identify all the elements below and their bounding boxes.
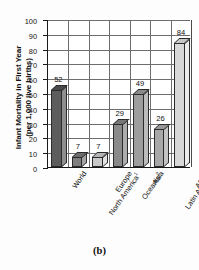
figure-container: Infant Mortality in First Year (per 1,00… xyxy=(0,0,199,270)
bar-front-face xyxy=(72,157,83,167)
y-axis-tick-label: 90 xyxy=(29,31,37,40)
y-axis-tick-label: 30 xyxy=(29,120,37,129)
y-axis-tick-label: 10 xyxy=(29,150,37,159)
bar: 84 xyxy=(174,43,185,167)
x-axis-label: World xyxy=(71,170,89,190)
bar-front-face xyxy=(92,157,103,167)
y-axis-title-line1: Infant Mortality in First Year xyxy=(14,46,23,149)
bar-value-label: 29 xyxy=(115,109,123,118)
bar: 7 xyxy=(72,157,83,167)
y-axis-tick-label: 80 xyxy=(29,46,37,55)
gridline-x xyxy=(191,20,192,167)
bar-side-face xyxy=(164,124,169,167)
plot-inner: 0102030405060708090100527729492684 xyxy=(48,20,190,167)
y-axis-tick-label: 50 xyxy=(29,91,37,100)
y-axis-tick: 20 xyxy=(43,138,48,139)
bar-value-label: 7 xyxy=(96,142,100,151)
x-axis-label-line: World xyxy=(71,170,89,190)
bar-front-face xyxy=(133,94,144,167)
bar: 26 xyxy=(154,129,165,167)
gridline-x xyxy=(150,20,151,167)
bar-front-face xyxy=(154,129,165,167)
gridline-x xyxy=(130,20,131,167)
y-axis-tick: 40 xyxy=(43,109,48,110)
bar-value-label: 52 xyxy=(54,75,62,84)
y-axis-tick-label: 70 xyxy=(29,61,37,70)
y-axis-tick: 30 xyxy=(43,124,48,125)
gridline-x xyxy=(68,20,69,167)
y-axis-tick: 50 xyxy=(43,94,48,95)
bar-value-label: 49 xyxy=(136,79,144,88)
gridline-x xyxy=(89,20,90,167)
bar-value-label: 26 xyxy=(156,114,164,123)
plot-area: 0102030405060708090100527729492684 xyxy=(47,20,190,168)
gridline-x xyxy=(109,20,110,167)
bar-front-face xyxy=(174,43,185,167)
y-axis-tick: 80 xyxy=(43,50,48,51)
bar-front-face xyxy=(113,124,124,167)
y-axis-tick: 70 xyxy=(43,64,48,65)
y-axis-tick-label: 0 xyxy=(33,165,37,174)
bar-value-label: 7 xyxy=(76,142,80,151)
bar-side-face xyxy=(62,86,67,167)
y-axis-tick: 100 xyxy=(43,20,48,21)
figure-caption: (b) xyxy=(0,245,199,256)
bar-side-face xyxy=(144,90,149,167)
bar: 7 xyxy=(92,157,103,167)
bar-value-label: 84 xyxy=(177,28,185,37)
bar: 52 xyxy=(51,90,62,167)
y-axis-tick-label: 20 xyxy=(29,135,37,144)
x-axis-labels: WorldNorth America1EuropeOceania2AsiaLat… xyxy=(47,168,190,248)
bar: 29 xyxy=(113,124,124,167)
bar-front-face xyxy=(51,90,62,167)
bar: 49 xyxy=(133,94,144,167)
y-axis-tick: 90 xyxy=(43,35,48,36)
y-axis-tick: 60 xyxy=(43,79,48,80)
y-axis-tick-label: 100 xyxy=(25,17,37,26)
y-axis-tick: 10 xyxy=(43,153,48,154)
y-axis-tick-label: 60 xyxy=(29,76,37,85)
bar-side-face xyxy=(123,120,128,167)
bar-side-face xyxy=(185,38,190,167)
gridline-x xyxy=(171,20,172,167)
y-axis-tick-label: 40 xyxy=(29,105,37,114)
